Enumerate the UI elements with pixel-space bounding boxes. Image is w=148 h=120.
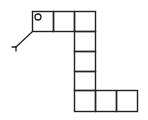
body-cell: [117, 91, 138, 112]
eye-circle: [35, 14, 41, 20]
body-cell: [75, 32, 96, 52]
forked-tongue: [12, 32, 32, 51]
body-cell: [54, 12, 75, 32]
body-cell: [75, 52, 96, 72]
snake-body: [33, 12, 138, 112]
body-cell: [96, 91, 117, 112]
snake-diagram: [0, 0, 148, 120]
body-cell: [75, 12, 96, 32]
body-cell: [75, 72, 96, 91]
body-cell: [75, 91, 96, 112]
tongue-stem: [16, 32, 32, 47]
